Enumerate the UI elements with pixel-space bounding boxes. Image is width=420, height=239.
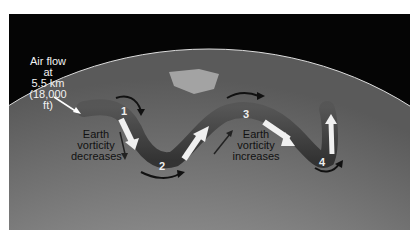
diagram-frame: Air flow at 5.5 km (18,000 ft) Earth vor…	[9, 14, 410, 230]
air-flow-label: Air flow at 5.5 km (18,000 ft)	[23, 56, 73, 111]
earth-diagram	[9, 14, 410, 230]
point-2: 2	[159, 160, 165, 172]
vorticity-decreases-label: Earth vorticity decreases	[71, 129, 121, 162]
point-4: 4	[319, 156, 325, 168]
point-3: 3	[243, 108, 249, 120]
vorticity-increases-label: Earth vorticity increases	[231, 129, 281, 162]
point-1: 1	[121, 105, 127, 117]
